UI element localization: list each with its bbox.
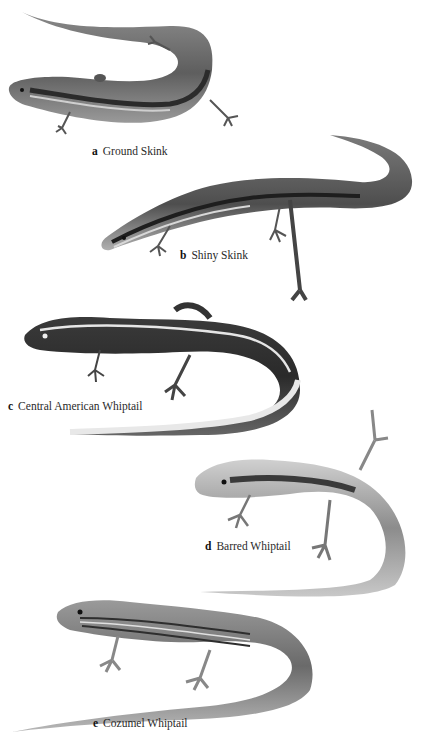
caption-name: Central American Whiptail: [18, 400, 142, 412]
cozumel-whiptail-illustration: [12, 600, 313, 732]
lizard-illustrations: [0, 0, 424, 744]
illustration-plate: aGround Skink bShiny Skink cCentral Amer…: [0, 0, 424, 744]
central-american-whiptail-illustration: [24, 305, 300, 435]
caption-a: aGround Skink: [92, 145, 168, 157]
caption-letter: d: [205, 540, 211, 552]
shiny-skink-illustration: [101, 135, 412, 300]
caption-b: bShiny Skink: [180, 249, 248, 261]
caption-e: eCozumel Whiptail: [93, 717, 188, 729]
barred-whiptail-illustration: [195, 410, 406, 596]
caption-name: Cozumel Whiptail: [103, 717, 187, 729]
caption-c: cCentral American Whiptail: [8, 400, 142, 412]
caption-name: Barred Whiptail: [216, 540, 290, 552]
caption-name: Shiny Skink: [191, 249, 248, 261]
caption-letter: b: [180, 249, 186, 261]
caption-name: Ground Skink: [103, 145, 168, 157]
caption-letter: e: [93, 717, 98, 729]
caption-letter: a: [92, 145, 98, 157]
ground-skink-illustration: [9, 12, 238, 134]
caption-d: dBarred Whiptail: [205, 540, 291, 552]
caption-letter: c: [8, 400, 13, 412]
